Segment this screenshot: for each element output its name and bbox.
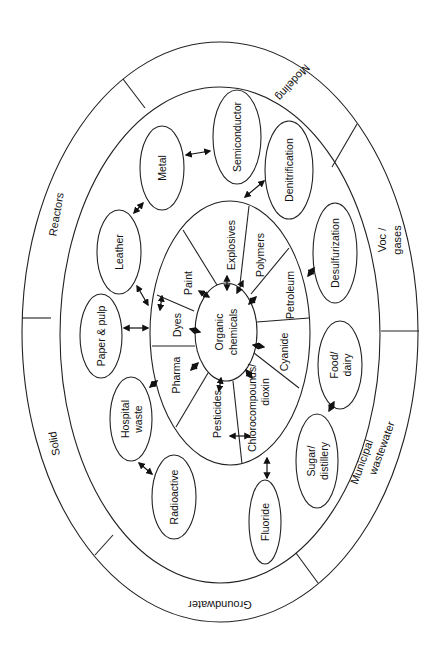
svg-text:Desulfurization: Desulfurization [329, 218, 341, 288]
svg-text:Metal: Metal [156, 155, 168, 181]
svg-text:Solid: Solid [46, 431, 62, 457]
svg-text:Pharma: Pharma [170, 356, 182, 393]
svg-text:Leather: Leather [113, 234, 125, 270]
svg-text:Organic: Organic [213, 314, 225, 351]
ring-label-solid: Solid [46, 431, 62, 457]
waste-metal: Metal [140, 126, 184, 210]
svg-text:Denitrification: Denitrification [283, 138, 295, 202]
waste-hospital: Hospital waste [110, 377, 152, 461]
sector-label-polymers: Polymers [254, 233, 266, 277]
waste-denitrification: Denitrification [265, 121, 313, 219]
svg-text:Paper & pulp: Paper & pulp [95, 305, 107, 366]
svg-text:Groundwater: Groundwater [188, 599, 252, 611]
sector-label-explosives: Explosives [225, 220, 237, 270]
svg-text:Petroleum: Petroleum [284, 271, 296, 319]
svg-text:Semiconductor: Semiconductor [231, 101, 243, 172]
waste-semiconductor: Semiconductor [213, 90, 261, 184]
svg-text:Voc /: Voc / [376, 227, 388, 252]
svg-text:Sugar/: Sugar/ [305, 445, 317, 476]
bioremediation-application-diagram: Modeling Reactors Solid Groundwater Muni… [0, 0, 440, 649]
ring-label-voc-gases: Voc / gases [376, 225, 403, 255]
sector-label-paint: Paint [182, 271, 194, 295]
svg-text:dairy: dairy [341, 353, 353, 377]
svg-text:Polymers: Polymers [254, 233, 266, 277]
sector-label-dyes: Dyes [171, 313, 183, 337]
waste-leather: Leather [97, 210, 141, 294]
sector-label-chlorocompounds-dioxin: Chlorocompounds/ dioxin [246, 364, 271, 452]
waste-paper-pulp: Paper & pulp [80, 294, 122, 378]
svg-text:Paint: Paint [182, 271, 194, 295]
ring-label-municipal-wastewater: Municipal wastewater [348, 415, 397, 491]
svg-text:Hospital: Hospital [119, 400, 131, 438]
sector-label-cyanide: Cyanide [278, 333, 290, 372]
svg-text:Pesticides: Pesticides [211, 390, 223, 438]
svg-text:Radioactive: Radioactive [168, 469, 180, 524]
sector-label-pesticides: Pesticides [211, 390, 223, 438]
svg-text:chemicals: chemicals [227, 309, 239, 356]
svg-text:dioxin: dioxin [259, 378, 271, 406]
svg-text:Explosives: Explosives [225, 220, 237, 270]
ring-label-modeling: Modeling [274, 62, 313, 103]
center-label: Organic chemicals [213, 309, 239, 356]
sector-label-pharma: Pharma [170, 356, 182, 393]
waste-desulfurization: Desulfurization [313, 203, 357, 303]
svg-text:Dyes: Dyes [171, 313, 183, 337]
waste-sugar-distillery: Sugar/ distillery [296, 414, 338, 508]
svg-text:waste: waste [132, 405, 144, 434]
center-ellipse-organic-chemicals [195, 283, 257, 381]
waste-radioactive: Radioactive [152, 455, 196, 539]
svg-text:Cyanide: Cyanide [278, 333, 290, 372]
svg-text:distillery: distillery [318, 441, 330, 480]
svg-text:Reactors: Reactors [46, 191, 66, 237]
svg-text:gases: gases [391, 225, 403, 255]
svg-text:Modeling: Modeling [274, 62, 313, 103]
svg-text:Fluoride: Fluoride [259, 503, 271, 541]
sector-label-petroleum: Petroleum [284, 271, 296, 319]
ring-label-reactors: Reactors [46, 191, 66, 237]
svg-text:Food/: Food/ [328, 351, 340, 378]
ring-label-groundwater: Groundwater [188, 599, 252, 611]
waste-fluoride: Fluoride [249, 480, 281, 564]
waste-food-dairy: Food/ dairy [318, 321, 362, 409]
